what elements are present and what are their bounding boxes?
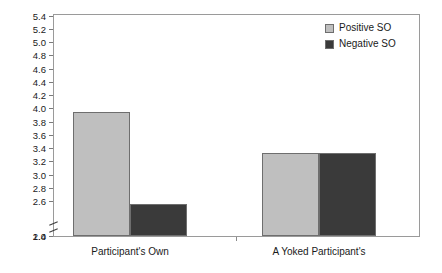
y-axis-tick-mark [49, 95, 53, 96]
y-axis-tick-mark [49, 122, 53, 123]
y-axis-tick-label: 5.4 [33, 11, 46, 22]
y-axis-tick: 3.8 [33, 117, 53, 128]
legend: Positive SONegative SO [325, 21, 396, 53]
y-axis-tick: 3.4 [33, 143, 53, 154]
y-axis-tick: 3.6 [33, 130, 53, 141]
y-axis-tick-label: 4.2 [33, 90, 46, 101]
y-axis-tick-mark [49, 55, 53, 56]
y-axis-tick-label: 3.2 [33, 156, 46, 167]
y-axis: 5.45.25.04.84.64.44.24.03.83.63.43.23.02… [0, 0, 53, 273]
x-axis-mid-tick [236, 237, 237, 241]
y-axis-tick-label: 3.6 [33, 130, 46, 141]
y-axis-tick-label: 4.4 [33, 77, 46, 88]
y-axis-tick-label: 1.0 [33, 231, 46, 242]
y-axis-tick-mark [49, 16, 53, 17]
y-axis-tick-mark [49, 29, 53, 30]
legend-swatch-icon [325, 40, 334, 49]
y-axis-tick-label: 3.0 [33, 170, 46, 181]
x-axis-group-label: Participant's Own [50, 246, 210, 258]
y-axis-tick: 2.6 [33, 196, 53, 207]
y-axis-tick-mark [49, 175, 53, 176]
y-axis-tick: 4.2 [33, 90, 53, 101]
y-axis-tick-mark [49, 148, 53, 149]
y-axis-tick: 4.6 [33, 64, 53, 75]
y-axis-tick-label: 3.4 [33, 143, 46, 154]
bar [262, 153, 319, 236]
legend-item: Negative SO [325, 37, 396, 51]
y-axis-tick-label: 2.6 [33, 196, 46, 207]
y-axis-tick: 3.2 [33, 156, 53, 167]
y-axis-tick: 5.0 [33, 37, 53, 48]
y-axis-tick: 5.4 [33, 11, 53, 22]
y-axis-tick: 3.0 [33, 170, 53, 181]
y-axis-tick-label: 5.2 [33, 24, 46, 35]
y-axis-tick-label: 4.8 [33, 50, 46, 61]
y-axis-tick-label: 4.6 [33, 64, 46, 75]
y-axis-tick-mark [49, 201, 53, 202]
bar-chart: 5.45.25.04.84.64.44.24.03.83.63.43.23.02… [0, 0, 442, 273]
bar [73, 112, 130, 236]
bar [130, 204, 187, 236]
y-axis-tick-label: 2.8 [33, 183, 46, 194]
y-axis-tick: 2.8 [33, 183, 53, 194]
y-axis-tick-label: 5.0 [33, 37, 46, 48]
y-axis-tick: 5.2 [33, 24, 53, 35]
y-axis-tick: 4.4 [33, 77, 53, 88]
legend-item-label: Positive SO [339, 22, 391, 34]
y-axis-tick-mark [49, 69, 53, 70]
y-axis-tick-mark [49, 161, 53, 162]
y-axis-tick-mark [49, 188, 53, 189]
y-axis-break-marker [49, 219, 58, 241]
x-axis-group-label: A Yoked Participant's [239, 246, 399, 258]
y-axis-tick-mark [49, 42, 53, 43]
y-axis-tick: 4.0 [33, 103, 53, 114]
y-axis-tick: 4.8 [33, 50, 53, 61]
y-axis-tick-label: 4.0 [33, 103, 46, 114]
legend-item: Positive SO [325, 21, 396, 35]
bar [319, 153, 376, 236]
legend-swatch-icon [325, 24, 334, 33]
y-axis-tick-mark [49, 82, 53, 83]
legend-item-label: Negative SO [339, 38, 396, 50]
y-axis-tick-mark [49, 135, 53, 136]
y-axis-tick-label: 3.8 [33, 117, 46, 128]
y-axis-tick-mark [49, 108, 53, 109]
